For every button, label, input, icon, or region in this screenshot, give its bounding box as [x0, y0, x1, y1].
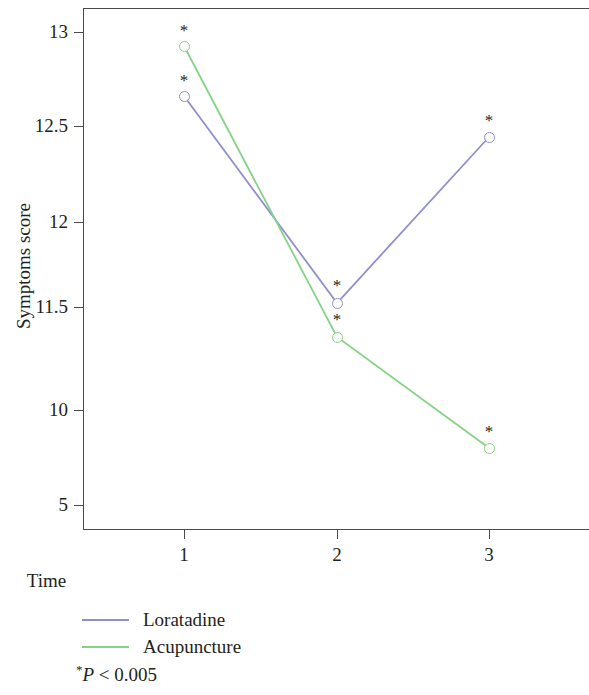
legend-swatch-acupuncture [82, 646, 129, 648]
y-tick-mark [74, 32, 83, 33]
y-tick-label: 12.5 [35, 116, 68, 135]
y-tick-label: 5 [59, 495, 69, 514]
legend-swatch-loratadine [82, 619, 129, 621]
y-tick-mark [74, 410, 83, 411]
footnote-statistic: P [83, 664, 95, 685]
legend-item-loratadine: Loratadine [82, 606, 241, 633]
y-tick-label: 10 [49, 400, 68, 419]
x-tick-mark [337, 530, 338, 539]
y-tick-mark [74, 126, 83, 127]
y-axis-title: Symptoms score [13, 176, 35, 356]
x-axis-title-text: Time [27, 570, 66, 591]
legend-label-acupuncture: Acupuncture [143, 636, 241, 658]
x-tick-mark [184, 530, 185, 539]
y-tick-mark [74, 222, 83, 223]
y-tick-label: 13 [49, 22, 68, 41]
y-tick-mark [74, 307, 83, 308]
x-tick-label: 1 [164, 545, 204, 564]
x-tick-mark [489, 530, 490, 539]
legend-label-loratadine: Loratadine [143, 609, 225, 631]
x-axis-title: Time [0, 570, 589, 592]
y-tick-label: 11.5 [35, 297, 68, 316]
x-tick-label: 2 [317, 545, 357, 564]
y-tick-label: 12 [49, 212, 68, 231]
significance-footnote: *P < 0.005 [76, 662, 157, 686]
y-tick-mark [74, 505, 83, 506]
plot-area [83, 8, 589, 530]
line-chart-figure: 13 12.5 12 11.5 10 5 1 2 3 Symptoms scor… [0, 0, 589, 695]
x-tick-label: 3 [469, 545, 509, 564]
legend: Loratadine Acupuncture [82, 606, 241, 660]
footnote-comparison: < 0.005 [94, 664, 157, 685]
legend-item-acupuncture: Acupuncture [82, 633, 241, 660]
